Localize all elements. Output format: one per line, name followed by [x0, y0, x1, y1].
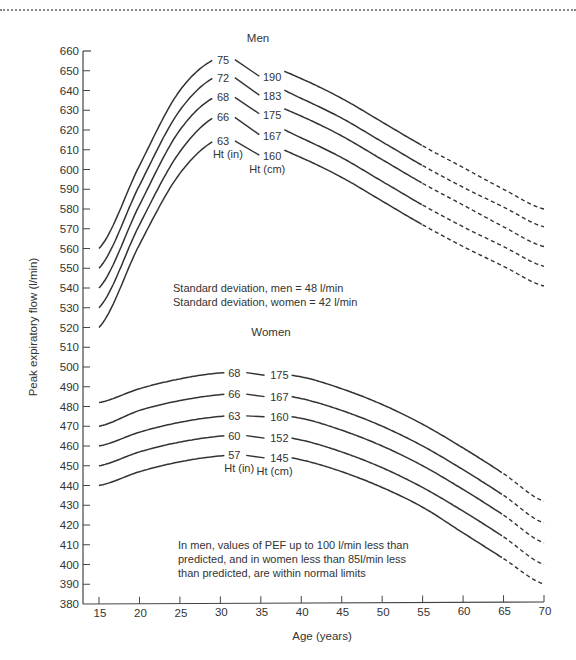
ht-in-caption: Ht (in) — [224, 462, 254, 474]
height-in-label: 66 — [228, 388, 240, 400]
curve-dashed — [423, 183, 544, 246]
y-tick-label: 520 — [60, 322, 79, 334]
height-cm-label: 175 — [263, 109, 281, 121]
curve-dashed — [504, 537, 545, 565]
height-in-label: 75 — [217, 54, 229, 66]
women-title: Women — [251, 326, 290, 338]
curve-dashed — [423, 205, 544, 266]
y-tick-label: 610 — [60, 144, 79, 156]
x-tick-label: 20 — [134, 607, 147, 619]
curve-solid — [99, 394, 224, 426]
curve-labels: 7519072183681756616763160Ht (in)Ht (cm)6… — [213, 54, 293, 477]
height-in-label: 68 — [217, 91, 229, 103]
curve-solid — [284, 71, 422, 145]
y-tick-label: 600 — [60, 164, 79, 176]
y-tick-label: 440 — [60, 480, 79, 492]
y-tick-label: 420 — [60, 519, 79, 531]
y-tick-label: 640 — [60, 85, 79, 97]
height-in-label: 63 — [217, 135, 229, 147]
ht-in-caption: Ht (in) — [213, 148, 243, 160]
x-tick-label: 45 — [336, 606, 349, 618]
y-tick-label: 550 — [60, 262, 79, 274]
curves — [99, 60, 544, 584]
x-tick-label: 40 — [296, 606, 309, 618]
y-tick-label: 620 — [60, 124, 79, 136]
men-title: Men — [247, 32, 269, 44]
y-tick-label: 510 — [60, 341, 79, 353]
curve-dashed — [423, 166, 544, 227]
curve-solid — [99, 60, 212, 248]
height-cm-label: 167 — [270, 391, 288, 403]
sd-women-text: Standard deviation, women = 42 l/min — [173, 296, 357, 308]
height-in-label: 63 — [228, 410, 240, 422]
height-cm-label: 183 — [263, 90, 281, 102]
label-connector — [246, 394, 264, 396]
height-in-label: 60 — [228, 430, 240, 442]
height-in-label: 72 — [217, 72, 229, 84]
curve-solid — [99, 373, 224, 403]
height-cm-label: 190 — [263, 71, 281, 83]
height-cm-label: 167 — [263, 130, 281, 142]
label-connector — [235, 97, 259, 113]
curve-dashed — [504, 474, 545, 502]
curve-solid — [284, 150, 422, 224]
y-tick-label: 570 — [60, 223, 79, 235]
y-tick-label: 540 — [60, 282, 79, 294]
curve-solid — [284, 130, 422, 205]
height-in-label: 66 — [217, 111, 229, 123]
y-tick-label: 430 — [60, 499, 79, 511]
y-tick-label: 480 — [60, 401, 79, 413]
x-tick-label: 55 — [417, 606, 430, 618]
label-connector — [246, 416, 264, 417]
height-in-label: 68 — [228, 367, 240, 379]
label-connector — [246, 436, 264, 438]
ht-cm-caption: Ht (cm) — [257, 465, 293, 477]
y-tick-label: 660 — [60, 45, 79, 57]
y-tick-label: 530 — [60, 302, 79, 314]
y-tick-label: 380 — [60, 598, 79, 610]
x-axis-label: Age (years) — [292, 630, 352, 642]
height-in-label: 57 — [228, 449, 240, 461]
curve-solid — [284, 90, 422, 165]
x-tick-label: 70 — [539, 605, 552, 617]
x-axis-line — [83, 602, 544, 604]
curve-dashed — [423, 225, 544, 286]
label-connector — [235, 78, 259, 96]
y-tick-label: 450 — [60, 460, 79, 472]
height-cm-label: 160 — [263, 150, 281, 162]
y-tick-label: 460 — [60, 440, 79, 452]
height-cm-label: 145 — [270, 452, 288, 464]
ht-cm-caption: Ht (cm) — [249, 163, 285, 175]
y-tick-label: 650 — [60, 65, 79, 77]
height-cm-label: 152 — [270, 432, 288, 444]
axes: 3803904004104204304404504604704804905005… — [60, 45, 552, 619]
curve-dashed — [423, 146, 544, 209]
y-tick-label: 560 — [60, 243, 79, 255]
height-cm-label: 175 — [270, 369, 288, 381]
curve-dashed — [504, 515, 545, 543]
y-tick-label: 500 — [60, 361, 79, 373]
y-tick-label: 580 — [60, 203, 79, 215]
y-tick-label: 470 — [60, 420, 79, 432]
y-tick-label: 490 — [60, 381, 79, 393]
y-axis-label: Peak expiratory flow (l/min) — [27, 257, 39, 396]
note-line-2: predicted, and in women less than 85l/mi… — [178, 553, 407, 565]
curve-solid — [284, 109, 422, 183]
label-connector — [235, 117, 259, 134]
x-tick-label: 60 — [458, 605, 471, 617]
y-tick-label: 630 — [60, 104, 79, 116]
label-connector — [246, 373, 264, 376]
y-tick-label: 390 — [60, 578, 79, 590]
pef-chart: 3803904004104204304404504604704804905005… — [0, 0, 576, 660]
x-tick-label: 15 — [94, 607, 107, 619]
label-connector — [246, 455, 264, 457]
height-cm-label: 160 — [270, 411, 288, 423]
note-line-3: than predicted, are within normal limits — [178, 567, 366, 579]
x-tick-label: 50 — [377, 606, 390, 618]
x-tick-label: 35 — [255, 606, 268, 618]
y-tick-label: 590 — [60, 183, 79, 195]
y-tick-label: 410 — [60, 539, 79, 551]
y-tick-label: 400 — [60, 559, 79, 571]
curve-solid — [99, 416, 224, 446]
x-tick-label: 25 — [175, 607, 188, 619]
